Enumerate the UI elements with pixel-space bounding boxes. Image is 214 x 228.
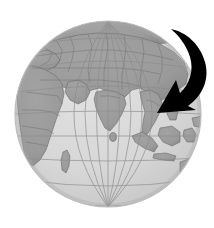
sri-lanka-landmass xyxy=(110,133,117,142)
globe-illustration xyxy=(0,0,214,228)
globe-figure xyxy=(0,0,214,228)
